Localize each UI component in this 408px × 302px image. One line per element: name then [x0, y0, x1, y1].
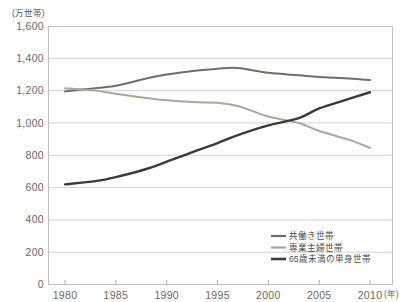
x-tick-label: 2000 — [256, 289, 281, 301]
x-tick-label: 1985 — [104, 289, 129, 301]
x-axis-unit-label: (年) — [384, 289, 399, 299]
x-tick-marks — [65, 280, 370, 285]
series-line-2 — [65, 92, 370, 184]
y-tick-label: 0 — [38, 278, 44, 290]
series-line-1 — [65, 88, 370, 148]
legend-label: 専業主婦世帯 — [289, 242, 343, 253]
x-tick-label: 2010 — [358, 289, 383, 301]
x-tick-label: 2005 — [307, 289, 332, 301]
series-line-0 — [65, 68, 370, 92]
x-tick-labels: 1980198519901995200020052010 — [53, 289, 383, 301]
y-tick-label: 200 — [26, 246, 44, 258]
y-tick-label: 1,600 — [16, 20, 44, 32]
chart-canvas: (万世帯) 02004006008001,0001,2001,4001,600 … — [0, 0, 408, 302]
data-series-group — [65, 68, 370, 185]
line-chart: (万世帯) 02004006008001,0001,2001,4001,600 … — [0, 0, 408, 302]
legend-label: 65歳未満の単身世帯 — [289, 253, 371, 264]
x-tick-label: 1980 — [53, 289, 78, 301]
y-tick-label: 400 — [26, 213, 44, 225]
y-axis-unit-label: (万世帯) — [12, 8, 45, 18]
y-tick-labels: 02004006008001,0001,2001,4001,600 — [16, 20, 44, 291]
y-tick-label: 600 — [26, 181, 44, 193]
y-tick-label: 1,400 — [16, 52, 44, 64]
chart-legend: 共働き世帯専業主婦世帯65歳未満の単身世帯 — [271, 230, 371, 264]
y-tick-label: 1,200 — [16, 84, 44, 96]
y-tick-label: 1,000 — [16, 117, 44, 129]
x-tick-label: 1990 — [154, 289, 179, 301]
x-tick-label: 1995 — [205, 289, 230, 301]
y-tick-label: 800 — [26, 149, 44, 161]
legend-label: 共働き世帯 — [289, 230, 334, 241]
